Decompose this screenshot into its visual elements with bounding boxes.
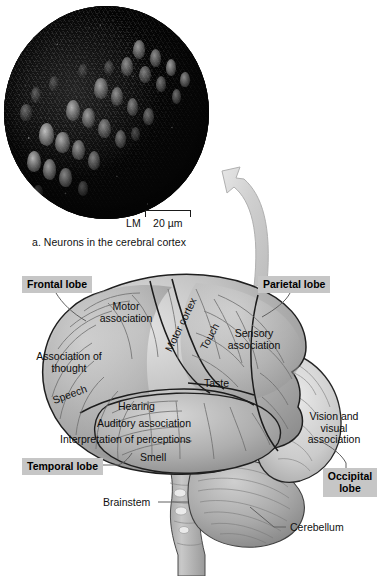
panel-a-caption: a. Neurons in the cerebral cortex (32, 236, 186, 248)
scale-bar: LM 20 µm (126, 210, 191, 229)
label-sensory-association: Sensory association (215, 328, 293, 351)
neurons-micrograph (4, 6, 209, 219)
label-occipital-lobe: Occipital lobe (323, 468, 377, 497)
label-parietal-lobe: Parietal lobe (258, 276, 330, 293)
label-smell: Smell (140, 452, 166, 464)
scale-bar-method-label: LM (126, 218, 141, 229)
scale-bar-rule (145, 210, 191, 217)
label-interpretation-of-perceptions: Interpretation of perceptions (60, 434, 191, 446)
label-cerebellum: Cerebellum (290, 521, 344, 533)
label-motor-association: Motor association (91, 301, 161, 324)
scale-bar-value-label: 20 µm (153, 217, 182, 229)
label-taste: Taste (204, 378, 229, 390)
brain-diagram: Frontal lobe Parietal lobe Temporal lobe… (0, 255, 376, 576)
label-auditory-association: Auditory association (97, 418, 191, 430)
label-vision-and-visual-association: Vision and visual association (299, 411, 369, 446)
micrograph-panel (4, 6, 209, 219)
label-brainstem: Brainstem (103, 496, 150, 508)
label-hearing: Hearing (118, 401, 155, 413)
label-frontal-lobe: Frontal lobe (22, 276, 92, 293)
scale-bar-measure: 20 µm (145, 210, 191, 229)
label-temporal-lobe: Temporal lobe (22, 458, 103, 475)
label-association-of-thought: Association of thought (30, 351, 108, 374)
micrograph-vignette (4, 6, 209, 219)
